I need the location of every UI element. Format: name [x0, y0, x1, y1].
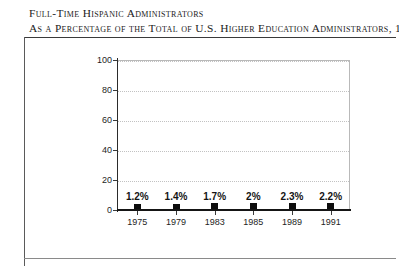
chart-title-line-1: Full-Time Hispanic Administrators	[29, 6, 391, 21]
x-axis-tick-mark	[137, 211, 138, 215]
y-axis-tick-mark	[113, 120, 117, 121]
frame-rule-top	[24, 37, 396, 38]
chart-title-line-2: As a Percentage of the Total of U.S. Hig…	[29, 21, 391, 36]
y-axis-tick-labels: 020406080100	[86, 60, 112, 210]
data-point-label: 1.4%	[165, 191, 188, 202]
gridline	[118, 61, 349, 62]
y-axis-tick-mark	[113, 90, 117, 91]
x-axis: 197519791983198519891991	[118, 211, 350, 239]
data-point-label: 1.7%	[203, 191, 226, 202]
gridline	[118, 181, 349, 182]
frame-rule-left	[24, 37, 25, 266]
x-axis-tick-mark	[292, 211, 293, 215]
y-axis-tick-mark	[113, 60, 117, 61]
gridline	[118, 151, 349, 152]
data-point-label: 2%	[246, 191, 260, 202]
frame-rule-bottom	[24, 258, 396, 259]
y-axis-tick-label: 80	[86, 85, 112, 95]
gridline	[118, 121, 349, 122]
y-axis-tick-mark	[113, 150, 117, 151]
y-axis-tick-label: 60	[86, 115, 112, 125]
x-axis-tick-mark	[215, 211, 216, 215]
x-axis-tick-mark	[176, 211, 177, 215]
x-axis-tick-label: 1989	[282, 217, 302, 227]
x-axis-tick-mark	[253, 211, 254, 215]
y-axis-tick-mark	[113, 210, 117, 211]
x-axis-tick-label: 1983	[205, 217, 225, 227]
x-axis-tick-label: 1979	[166, 217, 186, 227]
data-point-label: 2.3%	[281, 191, 304, 202]
x-axis-tick-label: 1991	[321, 217, 341, 227]
x-axis-tick-mark	[331, 211, 332, 215]
chart-figure: Full-Time Hispanic Administrators As a P…	[0, 0, 399, 270]
y-axis-tick-label: 20	[86, 175, 112, 185]
y-axis-tick-label: 0	[86, 205, 112, 215]
y-axis-tick-mark	[113, 180, 117, 181]
data-point-label: 1.2%	[126, 191, 149, 202]
gridline	[118, 91, 349, 92]
y-axis-tick-label: 40	[86, 145, 112, 155]
data-point-label: 2.2%	[319, 191, 342, 202]
y-axis-tick-label: 100	[86, 55, 112, 65]
chart-title-block: Full-Time Hispanic Administrators As a P…	[29, 6, 391, 35]
x-axis-tick-label: 1985	[243, 217, 263, 227]
x-axis-tick-label: 1975	[127, 217, 147, 227]
plot-area: 1.2%1.4%1.7%2%2.3%2.2%	[118, 60, 350, 210]
